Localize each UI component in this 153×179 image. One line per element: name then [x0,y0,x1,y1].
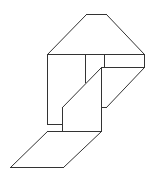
floor-left-slope [11,132,48,168]
roof-right-slope [107,15,145,55]
front-panel-slope [63,68,102,108]
shelf-right-slope [107,68,145,108]
geometric-line-figure [0,0,153,179]
roof-left-slope [48,15,87,55]
figure-segments [11,15,145,168]
floor-right-slope [64,132,102,168]
